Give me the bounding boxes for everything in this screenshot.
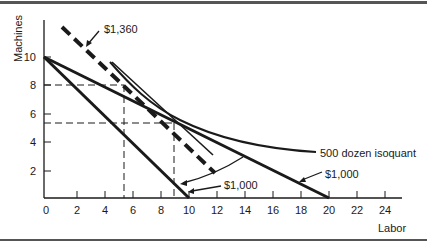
annot-1000-right: $1,000 bbox=[325, 168, 359, 180]
y-tick-label: 6 bbox=[30, 108, 36, 120]
annot-1360: $1,360 bbox=[104, 23, 138, 35]
isocost-1000-flat bbox=[44, 57, 329, 198]
y-tick-label: 10 bbox=[24, 51, 36, 63]
x-tick-label: 4 bbox=[102, 204, 108, 216]
x-tick-label: 10 bbox=[183, 204, 195, 216]
x-tick-label: 22 bbox=[351, 204, 363, 216]
top-rule bbox=[0, 1, 427, 4]
y-tick-label: 2 bbox=[30, 165, 36, 177]
y-ticks bbox=[44, 57, 51, 171]
annot-isoquant: 500 dozen isoquant bbox=[320, 147, 416, 159]
x-ticks bbox=[77, 191, 385, 198]
x-tick-label: 2 bbox=[74, 204, 80, 216]
y-tick-label: 8 bbox=[30, 79, 36, 91]
x-tick-label: 18 bbox=[295, 204, 307, 216]
x-tick-label: 12 bbox=[211, 204, 223, 216]
x-tick-label: 16 bbox=[267, 204, 279, 216]
x-tick-label: 14 bbox=[239, 204, 251, 216]
x-tick-label: 8 bbox=[158, 204, 164, 216]
bottom-rule bbox=[0, 239, 427, 241]
x-tick-label: 20 bbox=[323, 204, 335, 216]
annot-1000-bottom: $1,000 bbox=[224, 179, 258, 191]
x-tick-label: 24 bbox=[379, 204, 391, 216]
annotation-arrows bbox=[88, 31, 322, 191]
isoquant-curve bbox=[110, 62, 316, 152]
x-tick-label: 0 bbox=[43, 204, 49, 216]
x-axis-label: Labor bbox=[378, 222, 406, 234]
y-tick-label: 4 bbox=[30, 136, 36, 148]
isoquant-chart: 2 4 6 8 10 0 2 4 6 8 10 12 14 16 18 20 2… bbox=[0, 0, 427, 245]
y-axis-label: Machines bbox=[12, 14, 24, 62]
isocost-1360-dashed bbox=[62, 27, 215, 173]
tangent-line bbox=[112, 62, 213, 155]
x-tick-label: 6 bbox=[130, 204, 136, 216]
